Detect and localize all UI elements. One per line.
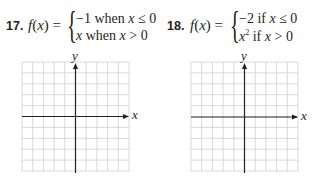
coordinate-grid-18[interactable]: y x: [0, 0, 316, 183]
grid-svg: [0, 0, 316, 183]
x-axis-label: x: [301, 108, 307, 124]
y-axis-label: y: [241, 48, 247, 64]
x-axis-arrow-icon: [292, 115, 298, 120]
